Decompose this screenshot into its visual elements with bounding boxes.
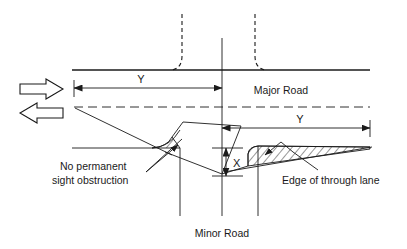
arrow-right-block-icon [20, 79, 63, 99]
intersection-sight-distance-diagram: Y Y Major Road [0, 0, 407, 249]
minor-road-edges [180, 146, 258, 216]
leader-lines-left-note [146, 139, 182, 172]
no-sight-obstruction-label-line2: sight obstruction [52, 174, 129, 186]
dimension-x-label: X [233, 157, 241, 169]
dimension-y-left-label: Y [137, 73, 145, 85]
curb-return-left [152, 130, 180, 148]
major-road-label: Major Road [254, 84, 308, 96]
dashed-flare-curves [172, 14, 265, 70]
dimension-y-left [74, 80, 222, 97]
arrow-left-block-icon [20, 103, 63, 123]
minor-road-label: Minor Road [195, 227, 249, 239]
diagram-canvas: Y Y Major Road [0, 0, 407, 249]
edge-of-through-lane-label: Edge of through lane [282, 174, 380, 186]
no-sight-obstruction-label-line1: No permanent [60, 160, 127, 172]
dimension-y-right-label: Y [296, 113, 304, 125]
